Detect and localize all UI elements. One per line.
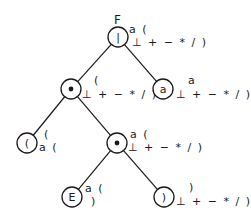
- concat-dot-icon: [69, 87, 74, 92]
- follow-set-label: ⊥ + − * / ): [132, 36, 208, 49]
- follow-set-label: ⊥ + − * / ): [82, 88, 158, 101]
- edges-group: [33, 44, 157, 189]
- first-set-label: a (: [85, 182, 104, 195]
- first-set-label: ): [189, 181, 195, 194]
- edge-n5-n7: [124, 151, 158, 190]
- first-set-label: a (: [130, 128, 149, 141]
- tree-node: aa⊥ + − * / ): [153, 74, 251, 101]
- tree-canvas: F |a (⊥ + − * / )(⊥ + − * / )aa⊥ + − * /…: [0, 0, 251, 219]
- first-set-label: (: [94, 74, 100, 87]
- tree-node: ))⊥ + − * / ): [154, 181, 251, 208]
- concat-dot-icon: [115, 141, 120, 146]
- follow-set-label: ⊥ + − * / ): [176, 88, 251, 101]
- first-set-label: (: [44, 128, 50, 141]
- first-set-label: a: [188, 74, 196, 87]
- edge-n1-n3: [125, 45, 157, 82]
- edge-n2-n5: [77, 97, 110, 136]
- tree-node: |a (⊥ + − * / ): [108, 23, 208, 49]
- tree-node: (⊥ + − * / ): [61, 74, 158, 101]
- follow-set-label: ): [91, 195, 97, 208]
- node-symbol: E: [69, 191, 76, 204]
- node-symbol: a: [160, 83, 167, 96]
- nodes-group: |a (⊥ + − * / )(⊥ + − * / )aa⊥ + − * / )…: [17, 23, 251, 208]
- follow-set-label: a (: [39, 141, 58, 154]
- tree-node: Ea (): [62, 182, 104, 208]
- tree-node: a (⊥ + − * / ): [107, 128, 204, 154]
- node-symbol: ): [162, 191, 166, 204]
- root-title-label: F: [114, 13, 121, 27]
- syntax-tree-diagram: F |a (⊥ + − * / )(⊥ + − * / )aa⊥ + − * /…: [0, 0, 251, 219]
- node-symbol: (: [25, 137, 29, 150]
- follow-set-label: ⊥ + − * / ): [128, 141, 204, 154]
- node-symbol: |: [116, 31, 120, 44]
- follow-set-label: ⊥ + − * / ): [176, 195, 251, 208]
- first-set-label: a (: [129, 23, 148, 36]
- tree-node: ((a (: [17, 128, 58, 154]
